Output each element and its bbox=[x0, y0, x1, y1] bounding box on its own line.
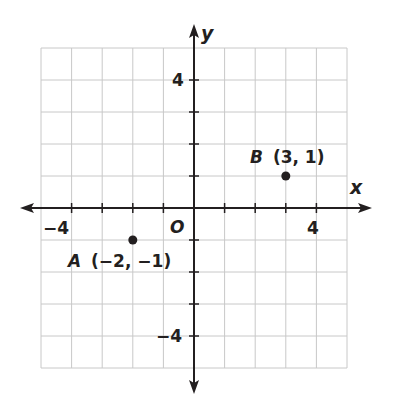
point-a-coords: (−2, −1) bbox=[91, 251, 171, 271]
x-tick-label-4: 4 bbox=[307, 218, 319, 238]
point-b-coords: (3, 1) bbox=[273, 147, 325, 167]
point-a-label: A (−2, −1) bbox=[66, 251, 171, 271]
point-b-marker bbox=[281, 172, 290, 181]
coordinate-plane: x y O −4 4 4 −4 A (−2, −1) B (3, 1) bbox=[0, 0, 394, 415]
point-b-name: B bbox=[250, 147, 263, 167]
x-tick-label-neg4: −4 bbox=[43, 218, 69, 238]
point-a-marker bbox=[128, 236, 137, 245]
y-axis-label: y bbox=[201, 22, 215, 44]
y-tick-label-neg4: −4 bbox=[156, 326, 182, 346]
point-b-label: B (3, 1) bbox=[250, 147, 324, 167]
origin-label: O bbox=[170, 217, 184, 237]
point-a-name: A bbox=[66, 251, 81, 271]
x-axis-label: x bbox=[349, 176, 363, 198]
y-tick-label-4: 4 bbox=[172, 70, 184, 90]
